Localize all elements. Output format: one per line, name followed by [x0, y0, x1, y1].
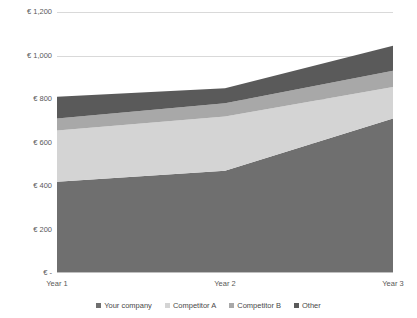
legend-item-competitor-b[interactable]: Competitor B: [229, 301, 281, 310]
y-axis-tick-label: € 600: [2, 139, 52, 147]
y-axis: € 1,200€ 1,000€ 800€ 600€ 400€ 200€ -: [0, 0, 52, 318]
legend-item-your-company[interactable]: Your company: [96, 301, 152, 310]
x-axis: Year 1Year 2Year 3: [0, 279, 417, 291]
legend-swatch-icon: [165, 303, 170, 308]
y-axis-tick-label: € -: [2, 269, 52, 277]
legend-swatch-icon: [96, 303, 101, 308]
legend-swatch-icon: [294, 303, 299, 308]
series-layer: [57, 12, 393, 273]
plot-area: [57, 12, 393, 273]
y-axis-tick-label: € 200: [2, 226, 52, 234]
y-axis-tick-label: € 800: [2, 95, 52, 103]
stacked-area-chart: Market share overview € 1,200€ 1,000€ 80…: [0, 0, 417, 318]
legend-label: Competitor B: [237, 301, 281, 310]
legend-swatch-icon: [229, 303, 234, 308]
x-axis-tick-label: Year 3: [363, 279, 417, 289]
x-axis-tick-label: Year 2: [195, 279, 255, 289]
legend-label: Competitor A: [173, 301, 216, 310]
x-axis-tick-label: Year 1: [27, 279, 87, 289]
legend-item-competitor-a[interactable]: Competitor A: [165, 301, 216, 310]
legend-item-other[interactable]: Other: [294, 301, 321, 310]
chart-legend: Your companyCompetitor ACompetitor BOthe…: [0, 299, 417, 311]
chart-title: Market share overview: [0, 0, 417, 2]
legend-label: Your company: [104, 301, 152, 310]
y-axis-tick-label: € 1,000: [2, 52, 52, 60]
y-axis-tick-label: € 1,200: [2, 8, 52, 16]
x-axis-line: [57, 272, 393, 273]
y-axis-tick-label: € 400: [2, 182, 52, 190]
legend-label: Other: [302, 301, 321, 310]
